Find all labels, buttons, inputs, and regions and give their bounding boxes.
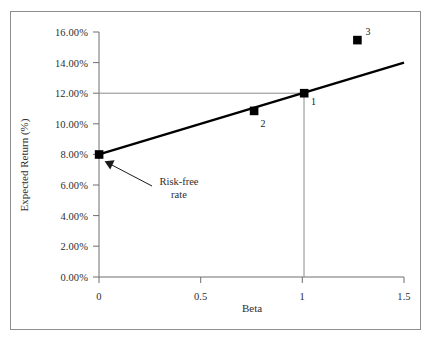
chart-canvas (0, 0, 431, 342)
risk-free-rate-annotation-line1: Risk-free (159, 176, 198, 189)
y-tick-label-6: 6.00% (40, 180, 88, 191)
y-tick-label-12: 12.00% (40, 88, 88, 99)
point-label-3: 3 (366, 26, 371, 37)
x-tick-label-0point5: 0.5 (194, 291, 207, 302)
marker-point-2 (250, 107, 259, 116)
y-tick-label-2: 2.00% (40, 241, 88, 252)
marker-risk-free (95, 150, 104, 159)
point-label-2: 2 (261, 118, 266, 129)
y-axis-title: Expected Return (%) (18, 119, 30, 212)
risk-free-rate-annotation: Risk-free rate (159, 176, 198, 201)
x-axis-title: Beta (242, 302, 262, 314)
y-tick-label-10: 10.00% (40, 118, 88, 129)
marker-point-1 (300, 89, 309, 98)
y-tick-label-16: 16.00% (40, 27, 88, 38)
x-tick-label-1: 1 (300, 291, 305, 302)
point-label-1: 1 (311, 96, 316, 107)
x-tick-marks (99, 277, 404, 283)
x-tick-label-1point5: 1.5 (397, 291, 410, 302)
risk-free-rate-annotation-line2: rate (159, 188, 198, 201)
marker-point-3 (353, 36, 362, 45)
figure: 16.00% 14.00% 12.00% 10.00% 8.00% 6.00% … (0, 0, 431, 342)
y-tick-label-0: 0.00% (40, 272, 88, 283)
x-tick-label-0: 0 (96, 291, 101, 302)
y-tick-label-8: 8.00% (40, 149, 88, 160)
y-tick-label-4: 4.00% (40, 210, 88, 221)
y-tick-label-14: 14.00% (40, 57, 88, 68)
risk-free-arrow (105, 160, 152, 186)
